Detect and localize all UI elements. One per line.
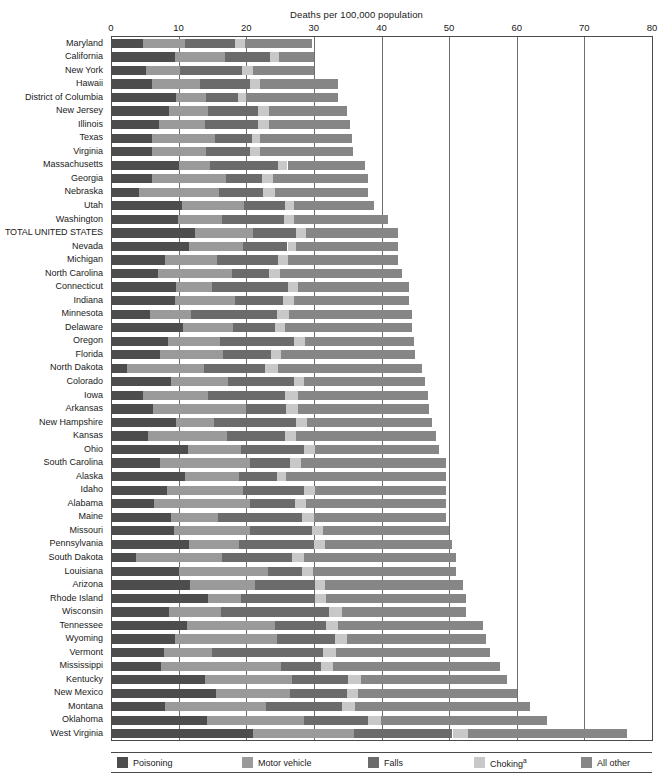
- stacked-bar: [111, 39, 312, 48]
- row-label-wyoming: Wyoming: [0, 633, 103, 644]
- bar-segment-falls: [239, 472, 277, 481]
- bar-segment-falls: [223, 350, 271, 359]
- stacked-bar: [111, 648, 490, 657]
- bar-segment-falls: [268, 567, 302, 576]
- legend-swatch-icon: [581, 757, 592, 768]
- row-label-alaska: Alaska: [0, 471, 103, 482]
- bar-segment-poisoning: [111, 445, 188, 454]
- bar-segment-motor-vehicle: [152, 147, 206, 156]
- row-label-maine: Maine: [0, 511, 103, 522]
- bar-segment-all-other: [273, 174, 368, 183]
- bar-segment-motor-vehicle: [182, 201, 244, 210]
- x-tick-label-0: 0: [108, 22, 113, 33]
- row-label-north-carolina: North Carolina: [0, 268, 103, 279]
- row-label-total-united-states: TOTAL UNITED STATES: [0, 227, 103, 238]
- chart-row: Oklahoma: [0, 714, 659, 728]
- stacked-bar: [111, 188, 368, 197]
- bar-segment-all-other: [253, 66, 314, 75]
- bar-segment-falls: [241, 445, 304, 454]
- stacked-bar: [111, 337, 414, 346]
- row-label-michigan: Michigan: [0, 254, 103, 265]
- bar-segment-choking: [292, 553, 305, 562]
- bar-segment-poisoning: [111, 729, 253, 738]
- bar-segment-motor-vehicle: [175, 634, 277, 643]
- bar-rows-container: MarylandCaliforniaNew YorkHawaiiDistrict…: [0, 37, 659, 741]
- bar-segment-motor-vehicle: [171, 513, 218, 522]
- bar-segment-falls: [219, 188, 264, 197]
- bar-segment-falls: [250, 499, 295, 508]
- x-tick-label-70: 70: [579, 22, 590, 33]
- stacked-bar: [111, 458, 446, 467]
- chart-row: California: [0, 51, 659, 65]
- bar-segment-poisoning: [111, 337, 168, 346]
- row-label-texas: Texas: [0, 132, 103, 143]
- stacked-bar: [111, 418, 432, 427]
- legend-item-falls[interactable]: Falls: [368, 757, 403, 768]
- bar-segment-motor-vehicle: [176, 93, 206, 102]
- chart-row: Utah: [0, 199, 659, 213]
- chart-row: New Mexico: [0, 687, 659, 701]
- bar-segment-motor-vehicle: [253, 729, 354, 738]
- bar-segment-falls: [290, 689, 347, 698]
- chart-row: Florida: [0, 348, 659, 362]
- bar-segment-motor-vehicle: [139, 188, 218, 197]
- legend-item-choking[interactable]: Chokinga: [474, 757, 527, 769]
- stacked-bar: [111, 255, 398, 264]
- bar-segment-motor-vehicle: [176, 418, 215, 427]
- bar-segment-falls: [200, 79, 250, 88]
- stacked-bar: [111, 729, 627, 738]
- chart-row: Montana: [0, 700, 659, 714]
- stacked-bar: [111, 567, 456, 576]
- chart-row: New Jersey: [0, 105, 659, 119]
- legend-item-all-other[interactable]: All other: [581, 757, 630, 768]
- bar-segment-choking: [347, 689, 358, 698]
- chart-row: Iowa: [0, 389, 659, 403]
- bar-segment-falls: [243, 242, 288, 251]
- bar-segment-falls: [250, 458, 290, 467]
- bar-segment-poisoning: [111, 52, 175, 61]
- legend-swatch-icon: [242, 757, 253, 768]
- bar-segment-choking: [263, 188, 275, 197]
- bar-segment-motor-vehicle: [168, 337, 219, 346]
- bar-segment-all-other: [279, 52, 314, 61]
- stacked-bar: [111, 377, 425, 386]
- legend-item-poisoning[interactable]: Poisoning: [117, 757, 173, 768]
- stacked-bar: [111, 580, 463, 589]
- stacked-bar: [111, 323, 412, 332]
- bar-segment-choking: [294, 337, 305, 346]
- bar-segment-poisoning: [111, 215, 178, 224]
- chart-row: Texas: [0, 132, 659, 146]
- bar-segment-poisoning: [111, 580, 190, 589]
- row-label-kentucky: Kentucky: [0, 674, 103, 685]
- bar-segment-poisoning: [111, 404, 153, 413]
- bar-segment-falls: [232, 269, 269, 278]
- bar-segment-motor-vehicle: [189, 540, 239, 549]
- bar-segment-motor-vehicle: [127, 364, 204, 373]
- stacked-bar: [111, 364, 422, 373]
- chart-legend: PoisoningMotor vehicleFallsChokingaAll o…: [111, 752, 652, 773]
- legend-item-motor-vehicle[interactable]: Motor vehicle: [242, 757, 312, 768]
- stacked-bar: [111, 174, 368, 183]
- bar-segment-motor-vehicle: [207, 716, 304, 725]
- bar-segment-motor-vehicle: [175, 296, 235, 305]
- bar-segment-all-other: [298, 282, 408, 291]
- row-label-indiana: Indiana: [0, 295, 103, 306]
- bar-segment-all-other: [288, 255, 398, 264]
- row-label-rhode-island: Rhode Island: [0, 593, 103, 604]
- bar-segment-all-other: [301, 458, 446, 467]
- chart-row: Arizona: [0, 579, 659, 593]
- bar-segment-poisoning: [111, 228, 195, 237]
- bar-segment-choking: [314, 540, 325, 549]
- row-label-new-jersey: New Jersey: [0, 105, 103, 116]
- bar-segment-motor-vehicle: [176, 282, 213, 291]
- bar-segment-choking: [270, 52, 279, 61]
- row-label-idaho: Idaho: [0, 484, 103, 495]
- bar-segment-all-other: [298, 404, 429, 413]
- bar-segment-all-other: [294, 215, 389, 224]
- bar-segment-all-other: [269, 120, 351, 129]
- bar-segment-choking: [321, 662, 332, 671]
- bar-segment-falls: [253, 228, 296, 237]
- bar-segment-poisoning: [111, 607, 169, 616]
- chart-row: West Virginia: [0, 727, 659, 741]
- bar-segment-poisoning: [111, 134, 152, 143]
